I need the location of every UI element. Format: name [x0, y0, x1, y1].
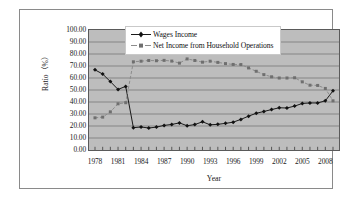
x-tick-label: 1987: [157, 157, 171, 166]
data-point-marker: [239, 117, 243, 121]
data-point-marker: [293, 104, 297, 108]
data-point-marker: [324, 87, 327, 90]
data-point-marker: [201, 61, 204, 64]
chart-legend: Wages Income Net Income from Household O…: [125, 26, 281, 55]
data-point-marker: [224, 121, 228, 125]
data-point-marker: [270, 108, 274, 112]
data-point-marker: [162, 123, 166, 127]
x-tick-label: 1981: [111, 157, 125, 166]
data-point-marker: [308, 84, 311, 87]
x-tick-label: 1990: [180, 157, 194, 166]
y-axis-title: Ratio（%）: [39, 32, 50, 112]
x-tick-label: 1996: [226, 157, 240, 166]
data-point-marker: [147, 59, 150, 62]
data-point-marker: [186, 57, 189, 60]
data-point-marker: [285, 77, 288, 80]
x-tick-label: 2002: [272, 157, 286, 166]
x-axis-tick-labels: 1978198119841987199019931996199920022005…: [88, 157, 340, 169]
data-point-marker: [101, 116, 104, 119]
data-point-marker: [316, 101, 320, 105]
data-point-marker: [155, 59, 158, 62]
x-tick-label: 2005: [295, 157, 309, 166]
data-point-marker: [247, 66, 250, 69]
x-tick-label: 1978: [88, 157, 102, 166]
data-point-marker: [124, 101, 127, 104]
legend-item-net-income: Net Income from Household Operations: [130, 40, 274, 51]
legend-item-wages-income: Wages Income: [130, 29, 274, 40]
data-point-marker: [277, 106, 281, 110]
y-tick-label: 70.00: [70, 62, 86, 70]
data-point-marker: [185, 124, 189, 128]
data-point-marker: [301, 80, 304, 83]
y-tick-label: 40.00: [70, 98, 86, 106]
data-point-marker: [200, 120, 204, 124]
x-axis-title: Year: [88, 174, 340, 183]
data-point-marker: [262, 109, 266, 113]
data-point-marker: [132, 60, 135, 63]
y-tick-label: 30.00: [70, 110, 86, 118]
data-point-marker: [278, 77, 281, 80]
y-tick-label: 0.00: [73, 146, 86, 154]
x-tick-label: 2008: [318, 157, 332, 166]
data-point-marker: [332, 99, 335, 102]
data-point-marker: [147, 126, 151, 130]
data-point-marker: [316, 84, 319, 87]
legend-label-net-income: Net Income from Household Operations: [153, 41, 274, 50]
data-point-marker: [140, 60, 143, 63]
chart-frame: 100.0090.0080.0070.0060.0050.0040.0030.0…: [19, 9, 333, 189]
data-point-marker: [255, 70, 258, 73]
data-point-marker: [139, 125, 143, 129]
data-point-marker: [224, 62, 227, 65]
data-point-marker: [247, 114, 251, 118]
data-point-marker: [94, 116, 97, 119]
legend-label-wages-income: Wages Income: [153, 30, 197, 39]
data-point-marker: [254, 111, 258, 115]
data-point-marker: [193, 59, 196, 62]
data-point-marker: [124, 84, 128, 88]
y-tick-label: 80.00: [70, 50, 86, 58]
data-point-marker: [285, 106, 289, 110]
data-point-marker: [239, 63, 242, 66]
y-tick-label: 100.00: [66, 26, 86, 34]
y-tick-label: 60.00: [70, 74, 86, 82]
x-tick-label: 1999: [249, 157, 263, 166]
data-point-marker: [163, 59, 166, 62]
data-point-marker: [270, 75, 273, 78]
y-tick-label: 50.00: [70, 86, 86, 94]
x-tick-label: 1984: [134, 157, 148, 166]
y-tick-label: 20.00: [70, 122, 86, 130]
series-line-2: [95, 59, 333, 118]
data-point-marker: [170, 60, 173, 63]
y-tick-label: 90.00: [70, 38, 86, 46]
data-point-marker: [177, 121, 181, 125]
data-point-marker: [308, 101, 312, 105]
data-point-marker: [209, 60, 212, 63]
data-point-marker: [262, 73, 265, 76]
data-point-marker: [231, 120, 235, 124]
square-marker-icon: [130, 41, 152, 50]
data-point-marker: [232, 63, 235, 66]
y-tick-label: 10.00: [70, 134, 86, 142]
data-point-marker: [109, 110, 112, 113]
data-point-marker: [93, 68, 97, 72]
data-point-marker: [117, 102, 120, 105]
diamond-marker-icon: [130, 30, 152, 39]
data-point-marker: [293, 76, 296, 79]
data-point-marker: [178, 62, 181, 65]
x-tick-label: 1993: [203, 157, 217, 166]
data-point-marker: [216, 61, 219, 64]
